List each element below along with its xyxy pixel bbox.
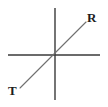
- label-upper-right-R: R: [87, 11, 96, 24]
- coordinate-axes-figure: R T: [0, 0, 108, 107]
- label-lower-left-T: T: [8, 84, 17, 97]
